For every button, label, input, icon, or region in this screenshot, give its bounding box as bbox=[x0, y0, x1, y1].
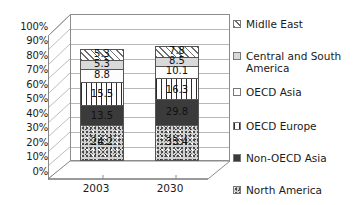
bar-group: 24.2 13.5 15.5 8.8 5.3 5.3 bbox=[70, 14, 230, 161]
segment-value-oecd-asia-2003: 8.8 bbox=[80, 70, 124, 80]
legend-label: OECD Europe bbox=[246, 120, 317, 132]
x-axis: 2003 2030 bbox=[48, 182, 230, 202]
bar-2003[interactable]: 24.2 13.5 15.5 8.8 5.3 5.3 bbox=[80, 14, 124, 161]
legend-swatch-diagonal-hatch-icon bbox=[233, 20, 241, 28]
segment-value-central-south-america-2003: 5.3 bbox=[80, 59, 124, 69]
segment-value-non-oecd-asia-2003: 13.5 bbox=[80, 111, 124, 121]
y-tick-label: 10% bbox=[2, 152, 48, 162]
legend-swatch-dark-icon bbox=[233, 154, 241, 162]
legend-item-middle-east[interactable]: Midlle East bbox=[233, 18, 303, 30]
legend-swatch-vertical-lines-icon bbox=[233, 122, 241, 130]
x-tick-label-2003: 2003 bbox=[66, 182, 126, 194]
y-tick-label: 20% bbox=[2, 138, 48, 148]
legend-item-oecd-europe[interactable]: OECD Europe bbox=[233, 120, 317, 132]
y-tick-label: 0% bbox=[2, 167, 48, 177]
segment-value-north-america-2030: 33.4 bbox=[155, 137, 199, 147]
legend-label: North America bbox=[246, 184, 322, 196]
y-tick-label: 90% bbox=[2, 36, 48, 46]
y-axis: 100% 90% 80% 70% 60% 50% 40% 30% 20% 10%… bbox=[0, 0, 48, 205]
legend-swatch-speckle-icon bbox=[233, 186, 241, 194]
legend-label: Midlle East bbox=[246, 18, 303, 30]
chart-legend: Midlle East Central and South America OE… bbox=[233, 12, 359, 202]
y-tick-label: 100% bbox=[2, 22, 48, 32]
legend-label: Central and South America bbox=[246, 50, 341, 74]
y-tick-label: 70% bbox=[2, 65, 48, 75]
segment-value-middle-east-2030: 7.8 bbox=[155, 46, 199, 56]
y-tick-label: 50% bbox=[2, 94, 48, 104]
segment-value-north-america-2003: 24.2 bbox=[80, 137, 124, 147]
segment-value-middle-east-2003: 5.3 bbox=[80, 49, 124, 59]
legend-label: Non-OECD Asia bbox=[246, 152, 327, 164]
y-tick-label: 60% bbox=[2, 80, 48, 90]
stacked-column-chart: 100% 90% 80% 70% 60% 50% 40% 30% 20% 10%… bbox=[0, 0, 359, 205]
x-tick-label-2030: 2030 bbox=[140, 182, 200, 194]
plot-area: 24.2 13.5 15.5 8.8 5.3 5.3 bbox=[48, 14, 230, 180]
legend-item-north-america[interactable]: North America bbox=[233, 184, 322, 196]
legend-item-non-oecd-asia[interactable]: Non-OECD Asia bbox=[233, 152, 327, 164]
legend-item-central-and-south-america[interactable]: Central and South America bbox=[233, 50, 341, 74]
legend-swatch-light-gray-icon bbox=[233, 52, 241, 60]
y-tick-label: 30% bbox=[2, 123, 48, 133]
segment-value-oecd-europe-2003: 15.5 bbox=[80, 89, 124, 99]
bar-2030[interactable]: 33.4 29.8 16.3 10.1 8.5 7.8 bbox=[155, 14, 199, 161]
y-tick-label: 80% bbox=[2, 51, 48, 61]
legend-swatch-white-icon bbox=[233, 88, 241, 96]
y-tick-label: 40% bbox=[2, 109, 48, 119]
legend-item-oecd-asia[interactable]: OECD Asia bbox=[233, 86, 302, 98]
segment-value-non-oecd-asia-2030: 29.8 bbox=[155, 107, 199, 117]
segment-value-central-south-america-2030: 8.5 bbox=[155, 56, 199, 66]
segment-value-oecd-asia-2030: 10.1 bbox=[155, 66, 199, 76]
legend-label: OECD Asia bbox=[246, 86, 302, 98]
segment-value-oecd-europe-2030: 16.3 bbox=[155, 85, 199, 95]
